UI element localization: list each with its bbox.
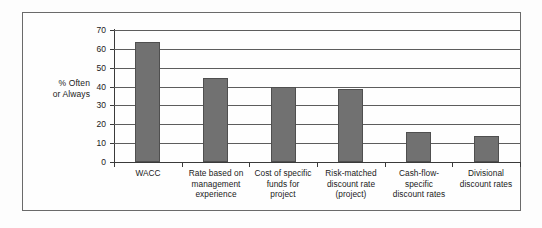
x-axis-category-label-line: Cash-flow- — [381, 168, 457, 179]
gridline — [114, 124, 520, 125]
x-axis-category-label-line: experience — [178, 189, 254, 200]
x-tick-mark — [249, 162, 250, 167]
x-axis-category-label-line: WACC — [110, 168, 186, 179]
x-axis-category-label: WACC — [110, 168, 186, 179]
y-tick-label: 30 — [80, 101, 106, 110]
gridline — [114, 49, 520, 50]
x-tick-mark — [452, 162, 453, 167]
y-tick-mark — [110, 143, 114, 144]
bar — [135, 42, 160, 162]
x-axis-category-label-line: funds for — [245, 179, 321, 190]
x-axis-category-label: Risk-matcheddiscount rate(project) — [313, 168, 389, 200]
y-tick-mark — [110, 49, 114, 50]
y-tick-label: 0 — [80, 158, 106, 167]
gridline — [114, 68, 520, 69]
x-axis-category-label-line: (project) — [313, 189, 389, 200]
y-tick-label: 10 — [80, 139, 106, 148]
x-tick-mark — [114, 162, 115, 167]
x-axis-category-label-line: discount rate — [313, 179, 389, 190]
gridline — [114, 105, 520, 106]
gridline — [114, 30, 520, 31]
x-axis-labels: WACCRate based onmanagementexperienceCos… — [110, 168, 524, 210]
x-axis-category-label-line: project — [245, 189, 321, 200]
x-axis-category-label: Divisionaldiscount rates — [448, 168, 524, 189]
y-tick-mark — [110, 105, 114, 106]
x-tick-mark — [385, 162, 386, 167]
x-axis-category-label-line: management — [178, 179, 254, 190]
plot-area — [114, 30, 520, 162]
y-tick-mark — [110, 87, 114, 88]
y-tick-mark — [110, 30, 114, 31]
x-axis-category-label-line: discount rates — [381, 189, 457, 200]
x-axis-category-label: Rate based onmanagementexperience — [178, 168, 254, 200]
bar — [474, 136, 499, 162]
x-axis-category-label: Cost of specificfunds forproject — [245, 168, 321, 200]
y-tick-mark — [110, 124, 114, 125]
bar — [338, 89, 363, 162]
bar — [406, 132, 431, 162]
x-tick-mark — [520, 162, 521, 167]
x-axis-category-label-line: Rate based on — [178, 168, 254, 179]
bar — [271, 87, 296, 162]
x-tick-mark — [182, 162, 183, 167]
y-tick-mark — [110, 68, 114, 69]
bar — [203, 78, 228, 162]
x-axis-category-label-line: Risk-matched — [313, 168, 389, 179]
gridline — [114, 87, 520, 88]
y-tick-label: 60 — [80, 45, 106, 54]
chart-figure: % Often or Always 010203040506070 WACCRa… — [0, 0, 542, 228]
y-tick-label: 50 — [80, 64, 106, 73]
y-tick-label: 40 — [80, 83, 106, 92]
y-tick-label: 70 — [80, 26, 106, 35]
x-axis-category-label-line: Divisional — [448, 168, 524, 179]
x-tick-mark — [317, 162, 318, 167]
gridline — [114, 143, 520, 144]
x-axis-category-label-line: specific — [381, 179, 457, 190]
y-tick-label: 20 — [80, 120, 106, 129]
x-axis-category-label-line: discount rates — [448, 179, 524, 190]
x-axis-category-label-line: Cost of specific — [245, 168, 321, 179]
x-axis-category-label: Cash-flow-specificdiscount rates — [381, 168, 457, 200]
